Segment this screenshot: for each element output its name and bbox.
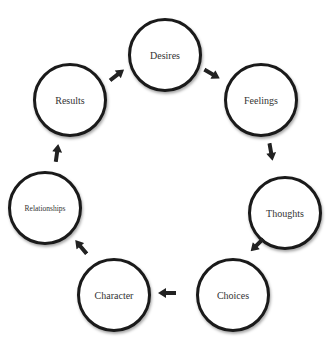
node-character: Character <box>77 258 151 332</box>
arrow-up-left-icon <box>71 237 90 257</box>
node-label-relationships: Relationships <box>25 204 66 213</box>
node-label-thoughts: Thoughts <box>266 208 304 219</box>
arrow-down-icon <box>265 142 278 161</box>
node-desires: Desires <box>128 18 202 92</box>
node-results: Results <box>33 63 107 137</box>
node-choices: Choices <box>196 258 270 332</box>
arrow-right-icon <box>202 65 223 83</box>
node-label-desires: Desires <box>150 50 180 61</box>
node-label-character: Character <box>95 290 134 301</box>
arrow-left-icon <box>158 288 176 298</box>
node-label-results: Results <box>55 95 84 106</box>
node-label-choices: Choices <box>217 290 249 301</box>
node-feelings: Feelings <box>224 63 298 137</box>
arrow-up-right-icon <box>107 66 127 85</box>
arrow-up-icon <box>51 143 63 162</box>
cycle-diagram: Desires Feelings Thoughts Choices Charac… <box>0 0 330 340</box>
node-label-feelings: Feelings <box>244 95 278 106</box>
node-relationships: Relationships <box>8 171 82 245</box>
